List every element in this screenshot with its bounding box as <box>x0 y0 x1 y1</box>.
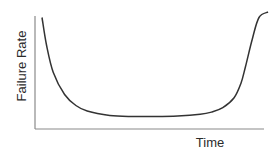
x-axis-label: Time <box>196 135 224 150</box>
bathtub-curve-chart: Failure Rate Time <box>0 0 279 152</box>
failure-rate-curve <box>42 12 268 117</box>
y-axis-label: Failure Rate <box>14 31 29 102</box>
